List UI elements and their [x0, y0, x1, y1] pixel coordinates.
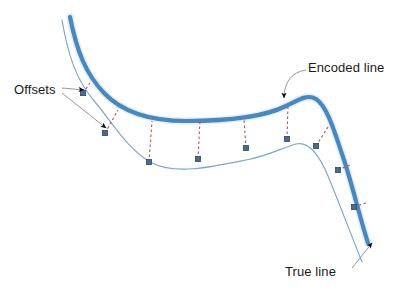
encoded-line-halo [70, 17, 368, 243]
vertex-marker [195, 156, 200, 161]
true-line-label: True line [285, 264, 336, 279]
vertex-marker [146, 159, 151, 164]
true-line [62, 20, 362, 262]
offsets-label: Offsets [14, 82, 56, 97]
true-line-group [62, 20, 362, 262]
encoded-line-leader-line [284, 70, 306, 98]
offsets-leader-line-b [62, 93, 106, 128]
encoded-line [70, 17, 368, 243]
annotation-labels: Offsets Encoded line True line [14, 60, 384, 279]
offset-line [149, 121, 152, 162]
offset-line [244, 119, 246, 148]
true-line-leader-line [352, 243, 372, 268]
offsets-diagram: Offsets Encoded line True line [0, 0, 406, 293]
vertex-marker [351, 204, 356, 209]
diagram-canvas: Offsets Encoded line True line [0, 0, 406, 293]
vertex-marker [335, 167, 340, 172]
vertex-marker [102, 130, 107, 135]
encoded-line-label: Encoded line [308, 60, 384, 75]
offset-line [198, 120, 200, 159]
vertex-marker [284, 136, 289, 141]
offsets-leader-line-a [62, 88, 84, 90]
vertex-marker [80, 90, 85, 95]
encoded-line-group [70, 17, 368, 243]
vertex-marker [243, 145, 248, 150]
vertex-marker [313, 143, 318, 148]
